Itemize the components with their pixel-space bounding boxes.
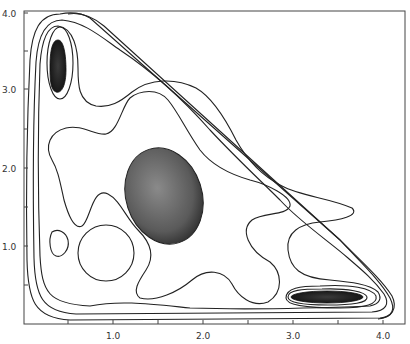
x-tick-label-4: 4.0 (376, 331, 391, 341)
x-tick-label-1: 1.0 (106, 331, 121, 341)
y-tick-label-1: 1.0 (2, 242, 17, 252)
peak-lower-right-high (291, 291, 363, 303)
y-tick-label-3: 3.0 (2, 85, 17, 95)
contour-low-level (39, 26, 380, 309)
axes-frame (24, 11, 405, 324)
peak-central-high (113, 138, 216, 255)
x-tick-label-2: 2.0 (196, 331, 211, 341)
contour-medium-lower-left-lobe (50, 230, 68, 256)
x-tick-label-3: 3.0 (286, 331, 301, 341)
peak-upper-left-high (50, 40, 66, 92)
contour-outer-2 (33, 20, 386, 314)
low-density-hole (78, 225, 134, 281)
x-axis: 1.0 2.0 3.0 4.0 (68, 320, 391, 341)
contour-plot: 4.0 3.0 2.0 1.0 1.0 2.0 3.0 4.0 (0, 0, 410, 344)
contour-hypotenuse (68, 14, 394, 320)
y-tick-label-4: 4.0 (2, 9, 17, 19)
y-tick-label-2: 2.0 (2, 164, 17, 174)
contour-outer-boundary (27, 13, 393, 320)
